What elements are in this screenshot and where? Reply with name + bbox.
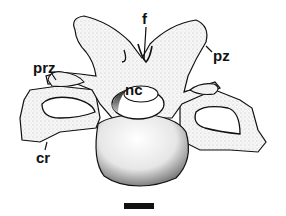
label-nc: nc	[125, 81, 143, 98]
left-transverse-process	[20, 86, 100, 142]
scale-bar	[124, 203, 154, 209]
centrum	[96, 114, 188, 186]
leader-pz	[206, 46, 212, 52]
vertebra-figure: f pz prz nc cr	[0, 0, 286, 216]
label-prz: prz	[33, 59, 56, 76]
label-pz: pz	[213, 47, 230, 64]
label-f: f	[142, 10, 148, 27]
label-cr: cr	[36, 149, 50, 166]
